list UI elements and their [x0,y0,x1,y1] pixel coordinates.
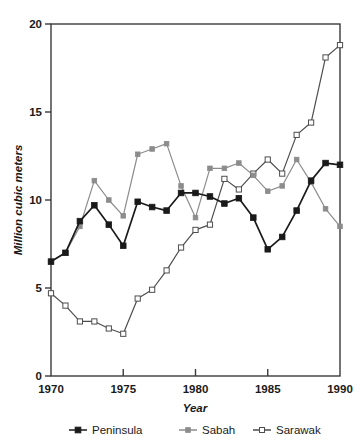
x-tick-label: 1990 [327,383,353,395]
legend-label: Sabah [202,424,235,436]
data-point [164,208,170,214]
data-point [294,157,299,162]
legend-marker-square-icon [75,427,81,433]
data-point [178,190,184,196]
series-peninsula [48,160,343,264]
data-point [323,55,328,60]
data-point [338,224,343,229]
data-point [164,268,169,273]
series-sarawak [48,43,342,337]
data-point [279,234,285,240]
data-point [280,171,285,176]
data-point [323,160,329,166]
series-line [51,45,340,334]
data-point [207,194,213,200]
data-point [135,199,141,205]
data-point [222,176,227,181]
x-tick-label: 1975 [110,383,136,395]
data-point [149,204,155,210]
line-chart: 05101520 19701975198019851990 Million cu… [0,0,364,447]
data-point [150,147,155,152]
data-point [251,173,256,178]
legend-marker-square-icon [186,428,191,433]
y-tick-label: 15 [29,106,42,118]
x-tick-label: 1970 [38,383,64,395]
data-point [179,184,184,189]
legend-item-sarawak[interactable]: Sarawak [253,424,321,436]
y-tick-label: 10 [29,194,42,206]
data-point [323,207,328,212]
data-point [265,189,270,194]
data-point [193,227,198,232]
data-point [107,198,112,203]
data-series-layer [48,43,343,337]
data-point [208,166,213,171]
y-tick-label: 20 [29,18,42,30]
data-point [150,287,155,292]
legend-item-peninsula[interactable]: Peninsula [69,424,143,436]
data-point [308,178,314,184]
y-tick-label: 5 [36,282,43,294]
data-point [294,132,299,137]
data-point [77,319,82,324]
data-point [237,161,242,166]
y-tick-label: 0 [36,370,42,382]
x-axis-tick-labels: 19701975198019851990 [38,383,353,395]
x-axis-ticks [123,369,268,376]
data-point [337,43,342,48]
legend-marker-square-icon [260,428,265,433]
legend-label: Sarawak [276,424,321,436]
chart-container: 05101520 19701975198019851990 Million cu… [0,0,364,447]
data-point [63,303,68,308]
data-point [121,331,126,336]
data-point [121,214,126,219]
data-point [193,215,198,220]
x-tick-label: 1980 [183,383,209,395]
data-point [178,245,183,250]
legend-label: Peninsula [92,424,143,436]
data-point [207,222,212,227]
data-point [236,187,241,192]
data-point [63,250,69,256]
data-point [48,259,54,265]
data-point [236,195,242,201]
data-point [280,184,285,189]
x-axis-title: Year [183,402,208,414]
data-point [92,319,97,324]
data-point [164,141,169,146]
data-point [309,120,314,125]
data-point [265,246,271,252]
data-point [222,166,227,171]
y-axis-ticks [45,24,51,376]
data-point [337,162,343,168]
data-point [193,190,199,196]
data-point [120,243,126,249]
data-point [77,218,83,224]
data-point [265,157,270,162]
data-point [48,291,53,296]
data-point [106,222,112,228]
chart-legend: PeninsulaSabahSarawak [69,424,321,436]
legend-item-sabah[interactable]: Sabah [179,424,235,436]
data-point [222,201,228,207]
y-axis-title: Million cubic meters [12,145,24,256]
data-point [294,208,300,214]
data-point [92,202,98,208]
data-point [106,326,111,331]
data-point [92,178,97,183]
y-axis-tick-labels: 05101520 [29,18,42,382]
x-tick-label: 1985 [255,383,281,395]
data-point [251,215,257,221]
data-point [135,296,140,301]
data-point [135,152,140,157]
